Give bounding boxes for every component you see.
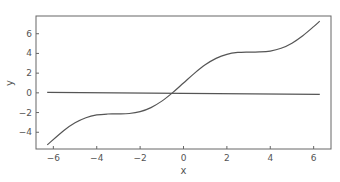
x-tick-label: −4 [90, 153, 104, 163]
x-tick-label: −6 [47, 153, 61, 163]
y-tick-label: 2 [26, 68, 32, 78]
line-chart: −6−4−20246 −4−20246 x y [0, 0, 340, 182]
y-tick-label: −2 [19, 108, 32, 118]
x-tick-label: 6 [311, 153, 317, 163]
x-tick-label: 2 [224, 153, 230, 163]
series-group [47, 21, 320, 145]
x-tick-label: −2 [133, 153, 146, 163]
y-tick-label: −4 [19, 127, 33, 137]
y-axis-label: y [4, 80, 15, 86]
series-flat-line [47, 92, 320, 94]
x-axis-label: x [181, 165, 187, 176]
x-tick-label: 4 [267, 153, 273, 163]
x-tick-label: 0 [181, 153, 187, 163]
series-curve [47, 21, 320, 145]
y-tick-label: 6 [26, 29, 32, 39]
y-tick-label: 4 [26, 48, 32, 58]
y-tick-label: 0 [26, 88, 32, 98]
